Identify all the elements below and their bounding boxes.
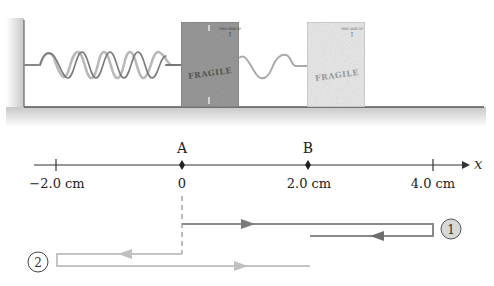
path-2: 2	[28, 249, 310, 272]
path-1-badge-label: 1	[447, 223, 455, 237]
tick-label: −2.0 cm	[29, 176, 84, 191]
point-label-a: A	[176, 140, 188, 156]
point-a-marker	[179, 160, 185, 170]
path-1-arrow-right-icon	[241, 219, 255, 229]
path-1-line	[182, 224, 433, 236]
x-axis: x −2.0 cm 0 2.0 cm 4.0 cm A B	[29, 140, 483, 191]
up-arrow-icon: ↑	[349, 31, 355, 39]
point-b-marker	[305, 160, 311, 170]
box-light	[307, 22, 365, 107]
path-2-arrow-right-icon	[234, 261, 248, 271]
spring-extended-ghost	[239, 55, 307, 79]
path-1: 1	[182, 219, 461, 241]
path-1-arrow-left-icon	[370, 231, 384, 241]
path-2-badge-label: 2	[34, 256, 42, 270]
axis-variable-label: x	[474, 155, 483, 173]
up-arrow-icon: ↑	[227, 31, 233, 39]
wall-shading	[6, 18, 24, 110]
wall-and-floor	[6, 18, 486, 127]
tick-label: 0	[178, 176, 186, 191]
spring-compressed	[24, 52, 181, 78]
tick-label: 4.0 cm	[411, 176, 455, 191]
point-label-b: B	[303, 140, 313, 156]
tick-label: 2.0 cm	[287, 176, 331, 191]
spring-mass-diagram: THIS SIDE UP ↑ FRAGILE THIS SIDE UP ↑ FR…	[0, 0, 494, 286]
path-2-arrow-left-icon	[118, 249, 132, 259]
box-at-position-b: THIS SIDE UP ↑ FRAGILE	[307, 22, 365, 107]
box-at-position-a: THIS SIDE UP ↑ FRAGILE	[181, 22, 241, 107]
path-2-line	[57, 254, 310, 266]
floor-shading	[6, 107, 486, 127]
axis-arrow-icon	[462, 161, 470, 169]
